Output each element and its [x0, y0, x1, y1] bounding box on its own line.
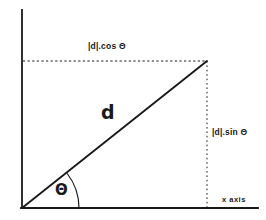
diagram-canvas: [0, 0, 266, 220]
sin-component-label: |d|.sin Θ: [212, 128, 247, 137]
angle-arc: [67, 174, 79, 209]
angle-theta-label: Θ: [55, 183, 68, 198]
vector-d-line: [22, 61, 207, 208]
cos-component-label: |d|.cos Θ: [88, 42, 126, 51]
x-axis-label: x axis: [222, 196, 246, 204]
vector-components-diagram: y axis x axis |d|.cos Θ |d|.sin Θ d Θ: [0, 0, 266, 220]
vector-d-label: d: [101, 103, 115, 122]
